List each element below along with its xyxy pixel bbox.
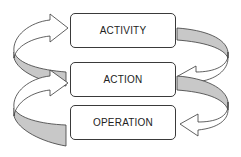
action-box: ACTION (70, 62, 176, 97)
activity-box: ACTIVITY (70, 13, 176, 48)
action-label: ACTION (104, 74, 143, 85)
arrow-left-action-to-activity-icon (14, 14, 68, 86)
arrow-left-operation-to-action-icon (14, 70, 68, 146)
operation-label: OPERATION (93, 117, 153, 128)
activity-label: ACTIVITY (100, 25, 147, 36)
arrow-right-action-to-operation-icon (177, 76, 228, 136)
operation-box: OPERATION (70, 105, 176, 140)
